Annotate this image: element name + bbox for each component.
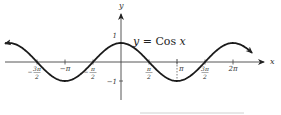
x-tick-numerator: 3π [201,65,210,72]
x-tick-denominator: 2 [90,73,95,80]
x-tick-numerator: 3π [33,65,42,72]
x-tick-numerator: π [146,65,152,72]
cosine-chart: xy−3π2−π−π2π2π3π22π1−1y = Cos x [0,0,281,115]
x-tick-denominator: 2 [34,73,39,80]
x-tick-numerator: π [90,65,96,72]
chart-title: y = Cos x [132,35,187,48]
x-axis-label: x [270,57,275,66]
y-tick-label: −1 [107,78,117,86]
x-tick-label: −π [60,65,71,73]
x-tick-minus: − [27,68,32,75]
x-tick-label: π [178,65,184,73]
y-axis-label: y [118,1,124,10]
y-tick-label: 1 [113,32,117,40]
x-tick-denominator: 2 [146,73,151,80]
x-tick-denominator: 2 [202,73,207,80]
x-tick-label: 2π [227,65,237,73]
x-tick-minus: − [83,68,88,75]
